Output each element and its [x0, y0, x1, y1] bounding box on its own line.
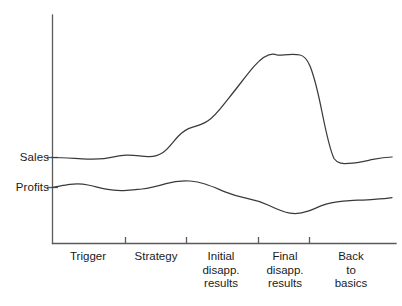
chart-container: Sales Profits Trigger Strategy Initial d…: [0, 0, 402, 306]
x-label-trigger: Trigger: [54, 250, 122, 264]
sales-series-line: [52, 54, 392, 163]
sales-axis-label: Sales: [0, 151, 49, 163]
profits-axis-label: Profits: [0, 181, 49, 193]
x-label-back-to-basics: Back to basics: [320, 250, 382, 291]
x-label-strategy: Strategy: [123, 250, 189, 264]
profits-series-line: [52, 181, 392, 214]
x-label-initial-disapp-results: Initial disapp. results: [190, 250, 252, 291]
x-label-final-disapp-results: Final disapp. results: [254, 250, 316, 291]
